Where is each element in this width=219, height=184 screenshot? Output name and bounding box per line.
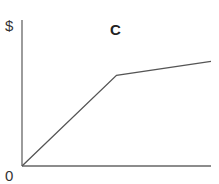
series-line-c bbox=[22, 61, 211, 166]
plot-area bbox=[0, 0, 219, 184]
